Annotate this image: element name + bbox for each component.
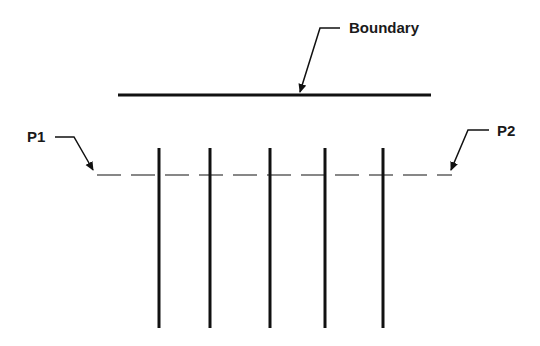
p1-leader-arrow [55, 137, 93, 170]
boundary-label: Boundary [349, 19, 420, 36]
boundary-leader-arrow [300, 28, 340, 92]
p2-leader-arrow [451, 130, 489, 170]
p2-label: P2 [497, 122, 515, 139]
diagram-canvas: Boundary P1 P2 [0, 0, 540, 346]
p1-label: P1 [27, 128, 45, 145]
